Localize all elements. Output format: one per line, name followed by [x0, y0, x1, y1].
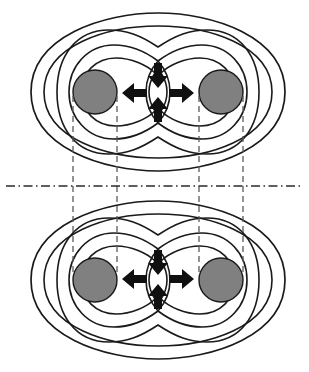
- lower-arrow-left-icon: [122, 269, 147, 289]
- lower-right-body: [199, 258, 243, 302]
- lower-arrow-up-icon: [148, 284, 168, 309]
- lower-panel: [31, 201, 285, 359]
- upper-arrow-right-icon: [169, 83, 194, 103]
- upper-arrow-left-icon: [122, 83, 147, 103]
- upper-panel: [31, 13, 285, 171]
- lower-arrow-right-icon: [169, 269, 194, 289]
- upper-right-body: [199, 70, 243, 114]
- figure-root: Two-body contour field diagram Mirror-sy…: [0, 0, 309, 372]
- upper-left-body: [73, 70, 117, 114]
- contour-field-diagram: [0, 0, 309, 372]
- lower-left-body: [73, 258, 117, 302]
- upper-arrow-down-icon: [148, 63, 168, 88]
